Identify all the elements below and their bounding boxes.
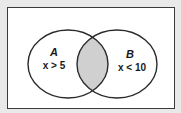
set-b-name: B: [126, 48, 134, 60]
set-b-condition: x < 10: [118, 62, 147, 73]
set-a-condition: x > 5: [43, 60, 66, 71]
set-a-name: A: [49, 46, 58, 58]
venn-diagram: A x > 5 B x < 10: [0, 0, 181, 113]
